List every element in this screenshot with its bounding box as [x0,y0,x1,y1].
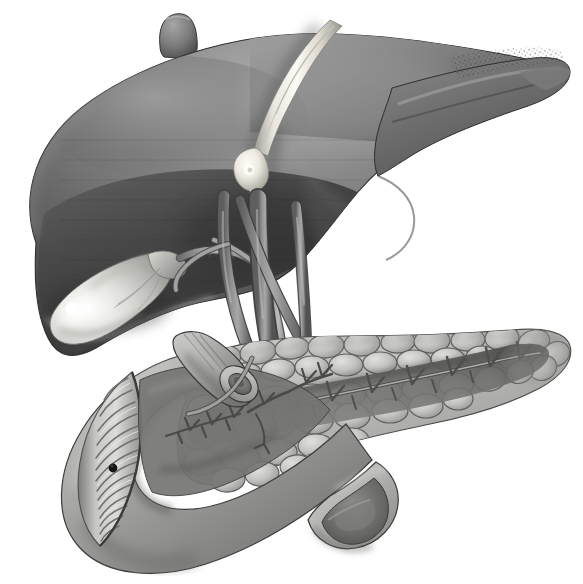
anatomical-illustration: Liver, Gallbladder, Pancreas and Duodenu… [0,0,583,584]
anatomy-canvas [0,0,583,584]
liver-caudate-stump [160,14,198,59]
